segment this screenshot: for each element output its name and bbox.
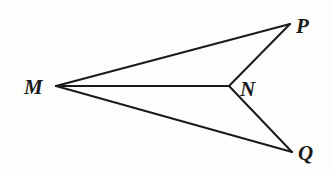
point-label-M: M — [24, 77, 43, 98]
segment-QM — [56, 86, 292, 152]
geometry-diagram: M P N Q — [0, 0, 332, 172]
point-label-Q: Q — [298, 143, 313, 164]
arrowhead-figure — [0, 0, 332, 172]
segment-PN — [229, 24, 290, 86]
segment-NQ — [229, 86, 292, 152]
point-label-P: P — [296, 16, 309, 37]
point-label-N: N — [240, 79, 255, 100]
